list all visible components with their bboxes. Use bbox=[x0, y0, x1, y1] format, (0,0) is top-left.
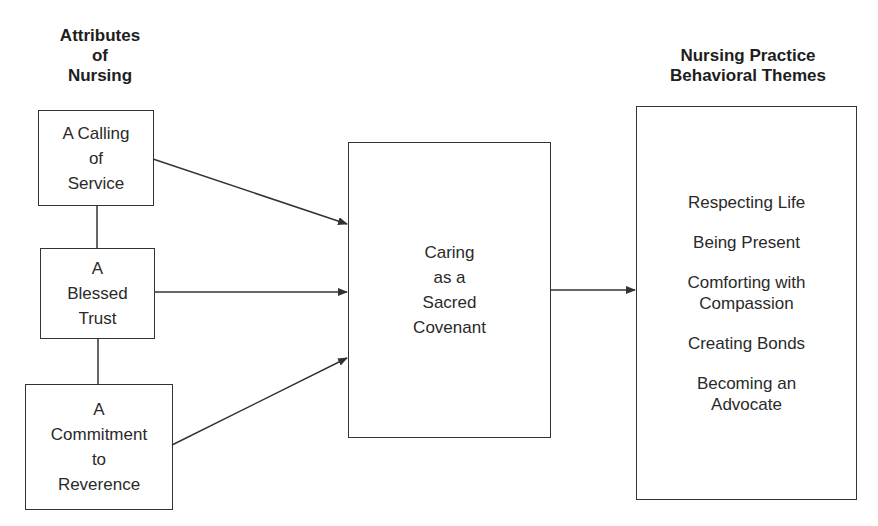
theme-becoming-an-advocate: Becoming an Advocate bbox=[697, 373, 796, 415]
attribute-label: A Calling of Service bbox=[62, 121, 129, 196]
theme-being-present: Being Present bbox=[693, 232, 800, 253]
theme-creating-bonds: Creating Bonds bbox=[688, 333, 805, 354]
themes-box: Respecting Life Being Present Comforting… bbox=[636, 106, 857, 500]
themes-heading: Nursing Practice Behavioral Themes bbox=[636, 46, 860, 86]
attribute-label: A Commitment to Reverence bbox=[51, 397, 147, 497]
attribute-box-calling-of-service: A Calling of Service bbox=[38, 110, 154, 206]
center-box-caring-covenant: Caring as a Sacred Covenant bbox=[348, 142, 551, 438]
attribute-box-commitment-to-reverence: A Commitment to Reverence bbox=[25, 384, 173, 510]
arrow-calling-to-covenant bbox=[153, 159, 347, 224]
theme-respecting-life: Respecting Life bbox=[688, 192, 805, 213]
theme-comforting-with-compassion: Comforting with Compassion bbox=[687, 272, 805, 314]
arrow-commitment-to-covenant bbox=[172, 358, 347, 445]
attributes-heading: Attributes of Nursing bbox=[30, 26, 170, 86]
center-label: Caring as a Sacred Covenant bbox=[413, 240, 486, 340]
attribute-box-blessed-trust: A Blessed Trust bbox=[40, 248, 155, 339]
attribute-label: A Blessed Trust bbox=[67, 256, 127, 331]
